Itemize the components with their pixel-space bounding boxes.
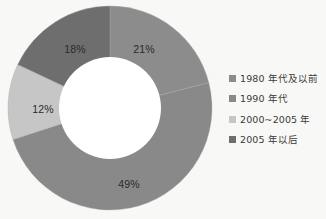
legend-item-after-2005[interactable]: 2005 年以后	[229, 130, 326, 151]
legend-label-2000-2005: 2000~2005 年	[240, 115, 310, 125]
legend-item-2000-2005[interactable]: 2000~2005 年	[229, 109, 326, 130]
legend-swatch-icon-2000-2005	[229, 116, 236, 123]
legend-swatch-icon-1990s	[229, 95, 236, 102]
legend-swatch-icon-1980s	[229, 75, 236, 82]
legend-label-1980s: 1980 年代及以前	[240, 74, 318, 84]
legend-label-1990s: 1990 年代	[240, 94, 288, 104]
slice-value-label-2000-2005: 12%	[32, 103, 54, 115]
legend-item-1980s[interactable]: 1980 年代及以前	[229, 68, 326, 89]
donut-chart-figure: 21% 49% 12% 18% 1980 年代及以前 1990 年代 2000~…	[0, 0, 326, 219]
legend-item-1990s[interactable]: 1990 年代	[229, 89, 326, 110]
legend-label-after-2005: 2005 年以后	[240, 135, 298, 145]
slice-value-label-1990s: 49%	[118, 178, 140, 190]
donut-chart-plot-area: 21% 49% 12% 18%	[7, 5, 213, 211]
legend-swatch-icon-after-2005	[229, 136, 236, 143]
slice-value-label-after-2005: 18%	[64, 43, 86, 55]
donut-hole	[59, 57, 161, 159]
chart-legend: 1980 年代及以前 1990 年代 2000~2005 年 2005 年以后	[229, 68, 326, 150]
slice-value-label-1980s: 21%	[133, 43, 155, 55]
